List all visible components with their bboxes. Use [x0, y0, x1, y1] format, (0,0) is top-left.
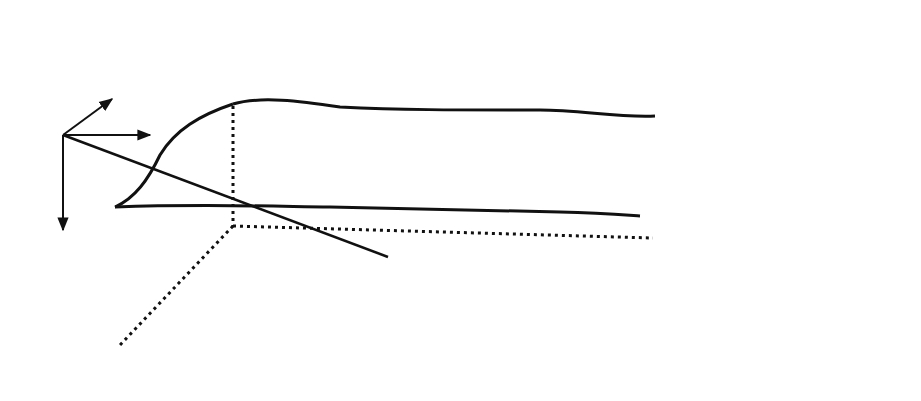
hidden-edges [120, 106, 653, 345]
position-vector-line [63, 135, 388, 257]
coordinate-axes [63, 99, 150, 230]
y-axis-arrow [63, 99, 112, 135]
beam-specimen-diagram [0, 0, 921, 401]
specimen-block [115, 100, 655, 216]
